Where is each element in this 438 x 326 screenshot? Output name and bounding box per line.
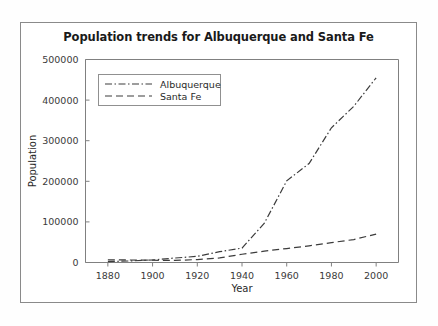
x-axis-title: Year: [230, 283, 253, 294]
x-tick-label: 1940: [230, 270, 254, 281]
x-tick-label: 1920: [185, 270, 209, 281]
x-tick-label: 1960: [275, 270, 299, 281]
x-tick-label: 1900: [140, 270, 164, 281]
plot-canvas: 0100000200000300000400000500000 18801900…: [0, 0, 438, 326]
y-tick-label: 100000: [42, 216, 78, 227]
y-tick-label: 300000: [42, 135, 78, 146]
x-tick-label: 2000: [364, 270, 388, 281]
chart-figure: Population trends for Albuquerque and Sa…: [0, 0, 438, 326]
y-tick-label: 500000: [42, 54, 78, 65]
x-axis-ticks: 1880190019201940196019802000: [96, 263, 388, 281]
x-tick-label: 1980: [319, 270, 343, 281]
y-axis-title: Population: [27, 135, 38, 188]
chart-legend: Albuquerque Santa Fe: [99, 75, 221, 106]
y-tick-label: 400000: [42, 95, 78, 106]
y-axis-ticks: 0100000200000300000400000500000: [42, 54, 89, 268]
legend-label-santafe: Santa Fe: [160, 91, 201, 102]
y-tick-label: 200000: [42, 176, 78, 187]
x-tick-label: 1880: [96, 270, 120, 281]
legend-label-albuquerque: Albuquerque: [160, 79, 221, 90]
y-tick-label: 0: [72, 257, 78, 268]
